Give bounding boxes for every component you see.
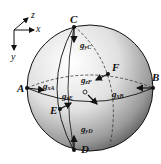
label-g-xA: gxA [43, 82, 55, 91]
label-D: D [81, 144, 89, 155]
label-B: B [152, 72, 159, 83]
label-F: F [112, 62, 119, 73]
label-g-yD: gyD [81, 125, 93, 134]
label-g-zF: gzF [81, 76, 92, 85]
label-E: E [50, 105, 57, 116]
coordinate-axes [14, 18, 34, 50]
axis-z-label: z [31, 10, 35, 20]
sphere-gravity-diagram: x y z A B C D E F gxA gxB gyC gyD gzE gz… [0, 0, 161, 164]
axis-y-label: y [11, 52, 15, 62]
label-g-xB: gxB [112, 90, 124, 99]
label-C: C [70, 14, 77, 25]
label-g-yC: gyC [80, 41, 91, 50]
label-A: A [17, 83, 24, 94]
label-g-zE: gzE [62, 92, 73, 101]
axis-x-label: x [36, 24, 40, 34]
